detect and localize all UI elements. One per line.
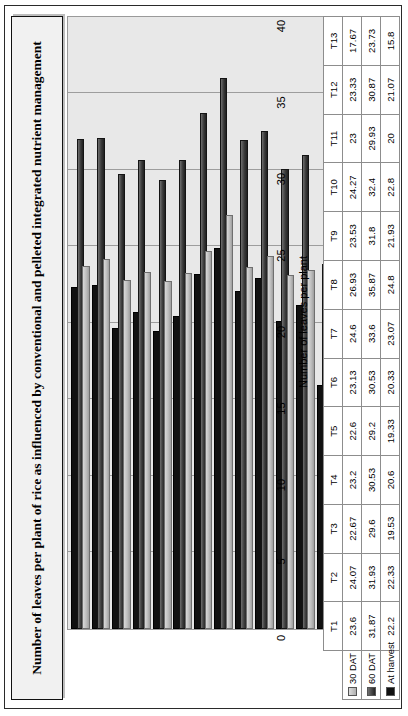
legend-label: 30 DAT bbox=[347, 653, 358, 684]
legend-label: At harvest bbox=[385, 642, 396, 684]
chart-title: Number of leaves per plant of rice as in… bbox=[29, 31, 45, 686]
square-swatch-icon bbox=[386, 687, 395, 696]
bar-group bbox=[129, 17, 149, 629]
square-swatch-icon bbox=[348, 687, 357, 696]
axis-tick-label: 15 bbox=[275, 402, 287, 414]
table-column-header: T10 bbox=[324, 163, 343, 212]
table-cell: 31.8 bbox=[362, 212, 381, 261]
table-cell: 19.53 bbox=[381, 504, 400, 553]
table-row: 30 DAT23.624.0722.6723.222.623.1324.626.… bbox=[343, 17, 362, 700]
bar-group bbox=[150, 17, 170, 629]
table-cell: 30.87 bbox=[362, 65, 381, 114]
table-column-header: T13 bbox=[324, 17, 343, 66]
table-header-row: T1T2T3T4T5T6T7T8T9T10T11T12T13 bbox=[324, 17, 343, 700]
table-row: 60 DAT31.8731.9329.630.5329.230.5333.635… bbox=[362, 17, 381, 700]
table-row: At harvest22.222.3319.5320.619.3320.3323… bbox=[381, 17, 400, 700]
table-cell: 22.67 bbox=[343, 504, 362, 553]
table-cell: 22.33 bbox=[381, 553, 400, 602]
axis-tick-label: 40 bbox=[275, 20, 287, 32]
legend-item-60-dat[interactable]: 60 DAT bbox=[362, 651, 381, 700]
legend-item-at-harvest[interactable]: At harvest bbox=[381, 651, 400, 700]
chart-title-box: Number of leaves per plant of rice as in… bbox=[11, 16, 63, 700]
value-axis-ticks: 0510152025303540 bbox=[275, 6, 297, 638]
axis-tick-label: 35 bbox=[275, 96, 287, 108]
bar-group bbox=[191, 17, 211, 629]
chart-frame: Number of leaves per plant of rice as in… bbox=[4, 5, 402, 709]
table-column-header: T9 bbox=[324, 212, 343, 261]
table-column-header: T6 bbox=[324, 358, 343, 407]
table-column-header: T7 bbox=[324, 309, 343, 358]
table-corner bbox=[324, 651, 343, 700]
legend-item-30-dat[interactable]: 30 DAT bbox=[343, 651, 362, 700]
table-cell: 23.13 bbox=[343, 358, 362, 407]
table-cell: 24.07 bbox=[343, 553, 362, 602]
table-cell: 23.53 bbox=[343, 212, 362, 261]
chart-stage: Number of leaves per plant of rice as in… bbox=[5, 6, 401, 708]
bar-group bbox=[68, 17, 88, 629]
table-column-header: T12 bbox=[324, 65, 343, 114]
table-cell: 31.93 bbox=[362, 553, 381, 602]
table-column-header: T3 bbox=[324, 504, 343, 553]
table-cell: 31.87 bbox=[362, 602, 381, 651]
table-cell: 21.93 bbox=[381, 212, 400, 261]
table-cell: 20.6 bbox=[381, 456, 400, 505]
table-column-header: T2 bbox=[324, 553, 343, 602]
table-cell: 29.93 bbox=[362, 114, 381, 163]
value-axis-title: Number of leaves per plant bbox=[297, 6, 317, 638]
table-cell: 23.2 bbox=[343, 456, 362, 505]
table-cell: 29.2 bbox=[362, 407, 381, 456]
table-column-header: T4 bbox=[324, 456, 343, 505]
table-cell: 35.87 bbox=[362, 260, 381, 309]
bar-group bbox=[211, 17, 231, 629]
table-cell: 23.07 bbox=[381, 309, 400, 358]
table-cell: 24.6 bbox=[343, 309, 362, 358]
table-cell: 30.53 bbox=[362, 456, 381, 505]
square-swatch-icon bbox=[367, 687, 376, 696]
bar-group bbox=[88, 17, 108, 629]
axis-tick-label: 25 bbox=[275, 249, 287, 261]
axis-tick-label: 30 bbox=[275, 173, 287, 185]
table-cell: 22.6 bbox=[343, 407, 362, 456]
table-cell: 20 bbox=[381, 114, 400, 163]
axis-tick-label: 5 bbox=[275, 558, 287, 564]
data-table-wrapper: T1T2T3T4T5T6T7T8T9T10T11T12T1330 DAT23.6… bbox=[323, 16, 395, 700]
bar-group bbox=[232, 17, 252, 629]
data-table: T1T2T3T4T5T6T7T8T9T10T11T12T1330 DAT23.6… bbox=[323, 16, 400, 700]
table-column-header: T5 bbox=[324, 407, 343, 456]
table-cell: 23.33 bbox=[343, 65, 362, 114]
table-cell: 30.53 bbox=[362, 358, 381, 407]
table-cell: 21.07 bbox=[381, 65, 400, 114]
table-cell: 33.6 bbox=[362, 309, 381, 358]
bar-group bbox=[109, 17, 129, 629]
table-column-header: T1 bbox=[324, 602, 343, 651]
table-column-header: T11 bbox=[324, 114, 343, 163]
axis-tick-label: 10 bbox=[275, 479, 287, 491]
table-cell: 29.6 bbox=[362, 504, 381, 553]
table-cell: 23.73 bbox=[362, 17, 381, 66]
table-cell: 22.8 bbox=[381, 163, 400, 212]
axis-tick-label: 0 bbox=[275, 635, 287, 641]
legend-label: 60 DAT bbox=[366, 653, 377, 684]
table-cell: 17.67 bbox=[343, 17, 362, 66]
axis-tick-label: 20 bbox=[275, 326, 287, 338]
table-cell: 23.6 bbox=[343, 602, 362, 651]
table-cell: 19.33 bbox=[381, 407, 400, 456]
bar-group bbox=[170, 17, 190, 629]
table-cell: 24.27 bbox=[343, 163, 362, 212]
table-cell: 20.33 bbox=[381, 358, 400, 407]
bar-group bbox=[252, 17, 272, 629]
table-cell: 32.4 bbox=[362, 163, 381, 212]
table-cell: 15.8 bbox=[381, 17, 400, 66]
table-cell: 26.93 bbox=[343, 260, 362, 309]
table-column-header: T8 bbox=[324, 260, 343, 309]
table-cell: 24.8 bbox=[381, 260, 400, 309]
table-cell: 23 bbox=[343, 114, 362, 163]
